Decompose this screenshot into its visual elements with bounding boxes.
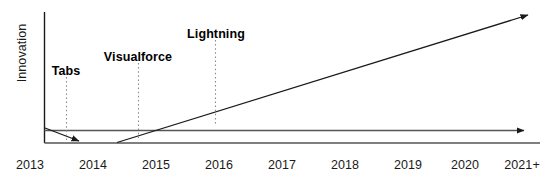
- x-tick-label: 2017: [268, 158, 296, 172]
- x-tick-label: 2020: [451, 158, 479, 172]
- y-axis-label: Innovation: [15, 3, 29, 103]
- x-tick-label: 2018: [331, 158, 359, 172]
- x-tick-label: 2013: [16, 158, 44, 172]
- x-tick-label: 2016: [205, 158, 233, 172]
- x-tick-label: 2015: [142, 158, 170, 172]
- annotation-label-lightning: Lightning: [187, 27, 245, 41]
- x-tick-label: 2014: [79, 158, 107, 172]
- innovation-timeline-chart: Innovation Tabs Visualforce Lightning 20…: [0, 0, 549, 180]
- x-tick-label: 2021+: [504, 158, 540, 172]
- chart-canvas: [0, 0, 549, 180]
- annotation-label-tabs: Tabs: [52, 64, 81, 78]
- annotation-label-visualforce: Visualforce: [104, 50, 172, 64]
- x-tick-label: 2019: [394, 158, 422, 172]
- series-lightning-growth: [117, 15, 528, 143]
